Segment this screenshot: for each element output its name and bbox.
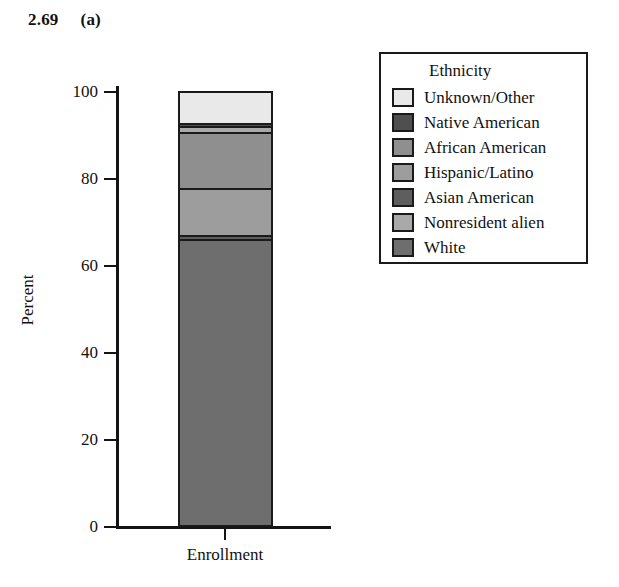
- y-axis-tick-20: [104, 439, 116, 441]
- legend-swatch-african-american: [392, 138, 414, 157]
- legend-swatch-native-american: [392, 113, 414, 132]
- bar-segment-hispanic-latino[interactable]: [180, 190, 271, 237]
- y-axis-tick-0: [104, 526, 116, 528]
- legend-swatch-asian-american: [392, 188, 414, 207]
- stacked-bar-enrollment[interactable]: [178, 91, 273, 527]
- legend-swatch-white: [392, 238, 414, 257]
- y-axis-label-60: 60: [52, 257, 98, 274]
- legend-title: Ethnicity: [429, 61, 491, 81]
- y-axis-label-20: 20: [52, 431, 98, 448]
- legend-items: Unknown/Other Native American African Am…: [392, 85, 582, 260]
- legend-item-nonresident-alien[interactable]: Nonresident alien: [392, 210, 582, 235]
- y-axis-label-0: 0: [52, 518, 98, 535]
- bar-segment-unknown-other[interactable]: [180, 93, 271, 125]
- y-axis-title: Percent: [18, 250, 38, 350]
- y-axis-label-40: 40: [52, 344, 98, 361]
- legend-label-hispanic-latino: Hispanic/Latino: [424, 163, 534, 182]
- x-axis-tick-enrollment: [224, 529, 226, 540]
- x-axis-category-label-enrollment: Enrollment: [150, 545, 300, 565]
- y-axis-tick-100: [104, 91, 116, 93]
- legend-label-african-american: African American: [424, 138, 546, 157]
- bar-segment-nonresident-alien[interactable]: [180, 128, 271, 135]
- legend: Ethnicity Unknown/Other Native American …: [379, 52, 588, 264]
- legend-item-asian-american[interactable]: Asian American: [392, 185, 582, 210]
- y-axis-tick-80: [104, 178, 116, 180]
- legend-label-asian-american: Asian American: [424, 188, 534, 207]
- y-axis-label-80: 80: [52, 170, 98, 187]
- y-axis-line: [116, 86, 119, 529]
- legend-label-white: White: [424, 238, 466, 257]
- legend-swatch-nonresident-alien: [392, 213, 414, 232]
- y-axis-label-100: 100: [52, 83, 98, 100]
- y-axis-tick-60: [104, 265, 116, 267]
- legend-swatch-hispanic-latino: [392, 163, 414, 182]
- legend-label-unknown-other: Unknown/Other: [424, 88, 534, 107]
- bar-segment-african-american[interactable]: [180, 134, 271, 190]
- legend-item-hispanic-latino[interactable]: Hispanic/Latino: [392, 160, 582, 185]
- bar-segment-white[interactable]: [180, 241, 271, 525]
- legend-item-unknown-other[interactable]: Unknown/Other: [392, 85, 582, 110]
- chart-plot-area: 100 80 60 40 20 0 Percent Enrollment Eth…: [0, 0, 619, 587]
- legend-swatch-unknown-other: [392, 88, 414, 107]
- legend-item-native-american[interactable]: Native American: [392, 110, 582, 135]
- legend-item-white[interactable]: White: [392, 235, 582, 260]
- legend-label-native-american: Native American: [424, 113, 540, 132]
- legend-label-nonresident-alien: Nonresident alien: [424, 213, 544, 232]
- legend-item-african-american[interactable]: African American: [392, 135, 582, 160]
- y-axis-tick-40: [104, 352, 116, 354]
